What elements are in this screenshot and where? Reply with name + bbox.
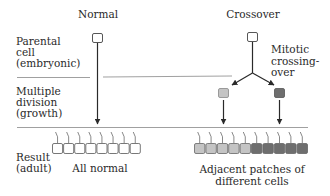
normal-adult-cells bbox=[53, 132, 141, 154]
adult-cell bbox=[297, 144, 307, 154]
split-arrow-right bbox=[253, 73, 275, 85]
adult-cell bbox=[240, 144, 250, 154]
bristle bbox=[243, 132, 245, 143]
bristle bbox=[300, 132, 302, 143]
diagram-artwork bbox=[0, 0, 330, 196]
adult-cell bbox=[130, 144, 140, 154]
normal-lineage bbox=[93, 34, 103, 125]
light-daughter-cell bbox=[219, 89, 229, 98]
crossover-lineage bbox=[219, 33, 285, 125]
adult-cell bbox=[217, 144, 227, 154]
patch-adult-cells bbox=[195, 132, 308, 154]
normal-parental-cell bbox=[93, 34, 103, 43]
bristle bbox=[56, 132, 58, 143]
bristle bbox=[221, 132, 223, 143]
bristle bbox=[278, 132, 280, 143]
bristle bbox=[78, 132, 80, 143]
adult-cell bbox=[252, 144, 262, 154]
bristle bbox=[209, 132, 211, 143]
bristle bbox=[111, 132, 113, 143]
bristle bbox=[266, 132, 268, 143]
adult-cell bbox=[119, 144, 129, 154]
adult-cell bbox=[86, 144, 96, 154]
adult-cell bbox=[75, 144, 85, 154]
bristle bbox=[122, 132, 124, 143]
adult-cell bbox=[263, 144, 273, 154]
bristle bbox=[100, 132, 102, 143]
bristle bbox=[89, 132, 91, 143]
adult-cell bbox=[64, 144, 74, 154]
bristle bbox=[67, 132, 69, 143]
crossover-parental-cell bbox=[248, 33, 258, 42]
stage-dividers bbox=[17, 76, 308, 128]
bristle bbox=[232, 132, 234, 143]
adult-cell bbox=[286, 144, 296, 154]
adult-cell bbox=[97, 144, 107, 154]
bristle bbox=[198, 132, 200, 143]
dark-daughter-cell bbox=[275, 89, 285, 98]
bristle bbox=[133, 132, 135, 143]
adult-cell bbox=[229, 144, 239, 154]
adult-cell bbox=[53, 144, 63, 154]
adult-cell bbox=[195, 144, 205, 154]
split-arrow-left bbox=[232, 73, 253, 85]
adult-cell bbox=[206, 144, 216, 154]
adult-cell bbox=[108, 144, 118, 154]
adult-cell bbox=[274, 144, 284, 154]
bristle bbox=[255, 132, 257, 143]
bristle bbox=[289, 132, 291, 143]
